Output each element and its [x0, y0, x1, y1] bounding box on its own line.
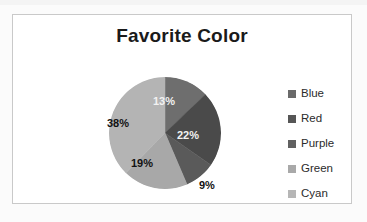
legend-item-red[interactable]: Red — [288, 108, 358, 129]
chart-frame: Favorite Color 13% 22% 9% 19% 38% Blue — [12, 14, 352, 204]
legend-swatch-icon-red — [288, 115, 296, 123]
pie-plot-area: 13% 22% 9% 19% 38% — [101, 73, 231, 201]
legend-swatch-icon-green — [288, 165, 296, 173]
legend-label-green: Green — [301, 163, 333, 175]
chart-legend: Blue Red Purple Green Cyan — [288, 83, 358, 208]
legend-swatch-icon-cyan — [288, 190, 296, 198]
chart-title: Favorite Color — [13, 25, 351, 47]
legend-item-blue[interactable]: Blue — [288, 83, 358, 104]
slice-label-red: 22% — [177, 129, 199, 141]
legend-label-purple: Purple — [301, 138, 334, 150]
slice-label-blue: 13% — [153, 95, 175, 107]
legend-label-red: Red — [301, 113, 322, 125]
scan-artifact — [0, 0, 367, 5]
legend-label-blue: Blue — [301, 88, 324, 100]
legend-item-green[interactable]: Green — [288, 158, 358, 179]
slice-label-cyan: 38% — [107, 117, 129, 129]
pie-graphic — [109, 77, 221, 189]
legend-swatch-icon-purple — [288, 140, 296, 148]
page-background: Favorite Color 13% 22% 9% 19% 38% Blue — [0, 0, 367, 222]
legend-label-cyan: Cyan — [301, 188, 328, 200]
legend-item-cyan[interactable]: Cyan — [288, 183, 358, 204]
slice-label-green: 19% — [131, 157, 153, 169]
legend-item-purple[interactable]: Purple — [288, 133, 358, 154]
pie-svg — [109, 77, 221, 189]
legend-swatch-icon-blue — [288, 90, 296, 98]
slice-label-purple: 9% — [199, 179, 215, 191]
